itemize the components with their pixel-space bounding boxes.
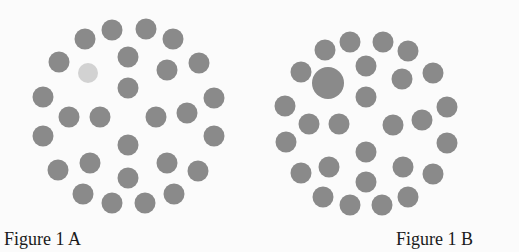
dot xyxy=(398,187,419,208)
dot xyxy=(90,107,111,128)
dot xyxy=(340,32,361,53)
dot xyxy=(423,164,444,185)
dot xyxy=(59,107,80,128)
dot xyxy=(118,168,139,189)
dot xyxy=(157,153,178,174)
caption-figure-1b: Figure 1 B xyxy=(396,230,473,248)
dot xyxy=(48,160,69,181)
dot xyxy=(80,153,101,174)
caption-figure-1a: Figure 1 A xyxy=(4,230,81,248)
dot xyxy=(291,62,312,83)
dot xyxy=(313,187,334,208)
dot xyxy=(146,107,167,128)
dot xyxy=(437,133,458,154)
dot xyxy=(118,135,139,156)
dot xyxy=(49,52,70,73)
dot xyxy=(383,115,404,136)
dot xyxy=(423,63,444,84)
dot xyxy=(340,195,361,216)
large-dot xyxy=(312,67,344,99)
dot xyxy=(412,110,433,131)
dot xyxy=(204,88,225,109)
dot xyxy=(356,142,377,163)
dot xyxy=(356,172,377,193)
dot xyxy=(102,193,123,214)
dot xyxy=(291,163,312,184)
dot xyxy=(329,114,350,135)
dot xyxy=(188,161,209,182)
dot xyxy=(164,184,185,205)
dot xyxy=(135,193,156,214)
dot xyxy=(356,56,377,77)
dot xyxy=(372,195,393,216)
highlight-dot xyxy=(78,63,98,83)
dot xyxy=(33,87,54,108)
dot xyxy=(177,103,198,124)
dot xyxy=(204,126,225,147)
dot xyxy=(437,97,458,118)
dot xyxy=(276,132,297,153)
dot xyxy=(75,29,96,50)
dot xyxy=(356,87,377,108)
dot xyxy=(392,69,413,90)
dot xyxy=(299,114,320,135)
dot xyxy=(315,40,336,61)
dot xyxy=(33,126,54,147)
dot xyxy=(189,53,210,74)
dot xyxy=(157,60,178,81)
dot xyxy=(373,32,394,53)
dot xyxy=(275,96,296,117)
dot xyxy=(136,19,157,40)
dot xyxy=(118,78,139,99)
dot xyxy=(319,157,340,178)
dot xyxy=(163,29,184,50)
dot xyxy=(398,41,419,62)
dot xyxy=(102,20,123,41)
figure-canvas xyxy=(0,0,519,252)
dot xyxy=(73,184,94,205)
dot xyxy=(118,47,139,68)
dot xyxy=(393,157,414,178)
